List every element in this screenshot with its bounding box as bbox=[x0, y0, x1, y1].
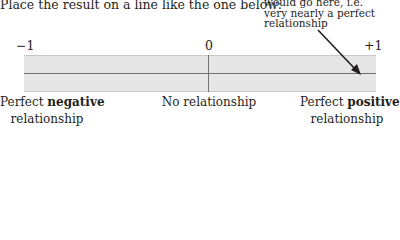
label-bold: negative bbox=[47, 95, 104, 109]
no-relationship-label: No relationship bbox=[150, 94, 268, 111]
label-prefix: Perfect bbox=[0, 95, 47, 109]
label-bold: positive bbox=[347, 95, 399, 109]
perfect-negative-label: Perfect negative relationship bbox=[0, 94, 94, 128]
label-line2: relationship bbox=[300, 111, 394, 128]
label-prefix: Perfect bbox=[300, 95, 347, 109]
perfect-positive-label: Perfect positive relationship bbox=[300, 94, 394, 128]
label-line2: relationship bbox=[0, 111, 94, 128]
